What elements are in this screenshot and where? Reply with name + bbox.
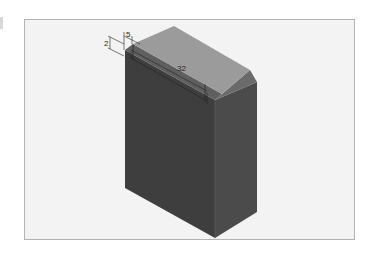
- dimension-label-chamfer-height: 2: [104, 39, 109, 48]
- isometric-drawing: 32 5 2: [0, 0, 370, 253]
- dimension-chamfer-height: [108, 36, 124, 56]
- right-face: [215, 82, 257, 238]
- dimension-label-chamfer-width: 5: [126, 30, 131, 39]
- dimension-label-length: 32: [177, 64, 186, 73]
